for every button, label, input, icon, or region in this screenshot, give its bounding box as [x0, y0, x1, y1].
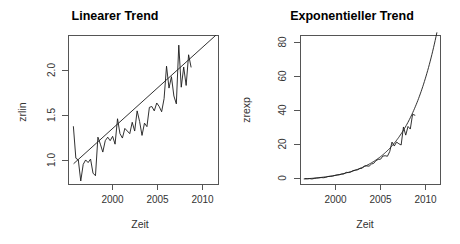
y-tick-label-1.5: 1.5 — [46, 108, 57, 122]
trend-curve-exponential — [304, 33, 437, 179]
x-axis-label-linear: Zeit — [131, 218, 149, 230]
x-tick-label-2005: 2005 — [369, 194, 392, 205]
x-axis-exponential: 2000 2005 2010 — [324, 184, 437, 205]
chart-panel-exponential: Exponentieller Trend 80 60 40 20 0 2000 … — [230, 0, 460, 244]
y-axis-linear: 2.0 1.5 1.0 — [46, 63, 68, 167]
y-tick-label-60: 60 — [277, 70, 288, 82]
plot-title-exponential: Exponentieller Trend — [290, 9, 414, 23]
y-tick-label-0: 0 — [277, 175, 288, 181]
exponential-trend-svg: Exponentieller Trend 80 60 40 20 0 2000 … — [230, 0, 460, 244]
linear-trend-svg: Linearer Trend 2.0 1.5 1.0 2000 2005 201… — [0, 0, 230, 244]
plot-frame-exponential — [301, 36, 441, 185]
data-series-zrlin — [73, 45, 191, 181]
data-series-zrexp — [305, 114, 415, 179]
y-tick-label-1.0: 1.0 — [46, 153, 57, 167]
y-tick-label-40: 40 — [277, 104, 288, 116]
trend-line-linear — [74, 36, 216, 164]
y-axis-label-exponential: zrexp — [240, 97, 252, 123]
y-axis-exponential: 80 60 40 20 0 — [277, 36, 300, 181]
x-axis-label-exponential: Zeit — [356, 218, 374, 230]
y-axis-label-linear: zrlin — [16, 102, 28, 121]
x-tick-label-2010: 2010 — [414, 194, 437, 205]
y-tick-label-80: 80 — [277, 36, 288, 48]
x-tick-label-2005: 2005 — [146, 194, 169, 205]
y-tick-label-20: 20 — [277, 138, 288, 150]
x-tick-label-2000: 2000 — [324, 194, 347, 205]
plot-title-linear: Linearer Trend — [72, 9, 159, 23]
figure-container: Linearer Trend 2.0 1.5 1.0 2000 2005 201… — [0, 0, 460, 244]
x-axis-linear: 2000 2005 2010 — [101, 184, 214, 205]
x-tick-label-2010: 2010 — [191, 194, 214, 205]
chart-panel-linear: Linearer Trend 2.0 1.5 1.0 2000 2005 201… — [0, 0, 230, 244]
x-tick-label-2000: 2000 — [101, 194, 124, 205]
y-tick-label-2.0: 2.0 — [46, 63, 57, 77]
